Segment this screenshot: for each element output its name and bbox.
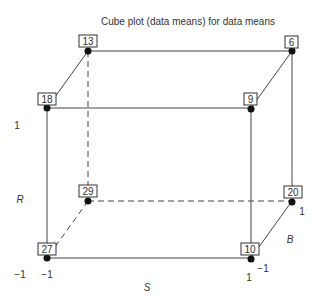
b-axis-label: B xyxy=(287,234,294,245)
svg-text:20: 20 xyxy=(287,187,299,198)
s-axis-label: S xyxy=(144,282,151,293)
svg-text:9: 9 xyxy=(248,94,254,105)
s-low-label: −1 xyxy=(41,269,53,280)
s-high-label: 1 xyxy=(246,272,252,283)
b-low-label: −1 xyxy=(257,263,269,274)
svg-text:10: 10 xyxy=(244,244,256,255)
corner-dot xyxy=(248,106,255,113)
svg-text:6: 6 xyxy=(289,37,295,48)
cube-plot: Cube plot (data means) for data means 13… xyxy=(0,0,318,300)
value-box-6: 6 xyxy=(285,36,298,48)
corner-dot xyxy=(44,105,51,112)
value-box-9: 9 xyxy=(244,93,257,105)
corner-dot xyxy=(289,199,296,206)
r-axis-label: R xyxy=(16,194,23,205)
value-box-13: 13 xyxy=(79,35,97,47)
value-box-18: 18 xyxy=(38,93,56,105)
value-box-10: 10 xyxy=(241,243,259,255)
svg-text:29: 29 xyxy=(82,186,94,197)
chart-title: Cube plot (data means) for data means xyxy=(101,16,275,27)
svg-text:27: 27 xyxy=(41,244,53,255)
r-high-label: 1 xyxy=(14,120,20,131)
corner-dot xyxy=(44,255,51,262)
value-box-20: 20 xyxy=(284,186,302,198)
svg-text:18: 18 xyxy=(41,94,53,105)
corner-dot xyxy=(85,48,92,55)
corner-dot xyxy=(248,256,255,263)
corner-dot xyxy=(289,48,296,55)
value-box-29: 29 xyxy=(79,185,97,197)
value-box-27: 27 xyxy=(38,243,56,255)
b-high-label: 1 xyxy=(299,206,305,217)
r-low-label: −1 xyxy=(14,269,26,280)
svg-text:13: 13 xyxy=(82,36,94,47)
corner-dot xyxy=(85,198,92,205)
